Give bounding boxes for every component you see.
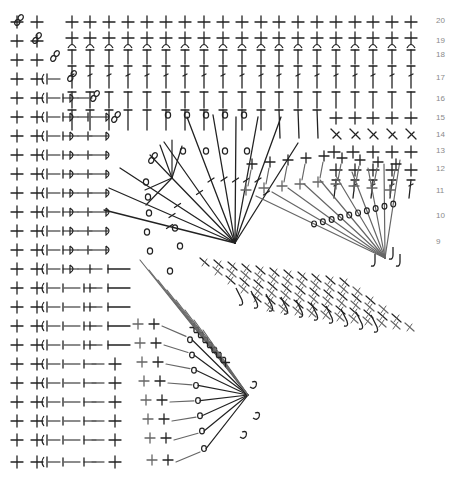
hook-icon [326, 306, 333, 323]
fan-spoke [192, 340, 248, 395]
arc-icon [219, 45, 227, 49]
stitch-line [389, 132, 395, 138]
stitch-line [408, 132, 414, 138]
chain-figure8-icon [67, 70, 78, 83]
stitch-line [298, 110, 299, 138]
stitch-line [240, 74, 244, 76]
arc-icon [275, 45, 283, 49]
hook-icon [371, 315, 378, 332]
stitch-line [302, 164, 305, 180]
row-label: 19 [436, 36, 445, 45]
arc-icon [313, 45, 321, 49]
ring-icon [177, 243, 182, 249]
row-label: 9 [436, 237, 441, 246]
hook-icon [253, 413, 260, 420]
arc-icon [181, 45, 189, 49]
arc-icon [351, 45, 359, 49]
hook-icon [341, 309, 348, 326]
row-label: 18 [436, 50, 445, 59]
ring-icon [144, 229, 149, 235]
stitch-line [164, 74, 168, 76]
fan-spoke [288, 188, 385, 258]
fan-spoke [150, 155, 172, 178]
stitch-line [221, 74, 225, 76]
arc-icon [105, 45, 113, 49]
stitch-line [202, 74, 206, 76]
arc-icon [238, 45, 246, 49]
stitch-line [277, 74, 281, 76]
fan-row [172, 417, 196, 421]
arc-icon [200, 45, 208, 49]
chain-figure8-icon [111, 111, 122, 124]
fan-spoke [145, 178, 172, 190]
arc-icon [332, 45, 340, 49]
stitch-line [266, 168, 269, 184]
arc-icon [257, 45, 265, 49]
hook-icon [236, 288, 243, 305]
stitch-line [334, 74, 338, 76]
stitch-line [183, 74, 187, 76]
stitch-line [126, 74, 130, 76]
fan-stitches [14, 14, 414, 465]
ring-icon [244, 148, 249, 154]
fan-row [170, 401, 194, 402]
stitch-line [88, 74, 92, 76]
chain-figure8-icon [14, 14, 25, 27]
ring-icon [167, 268, 172, 274]
stitch-line [371, 74, 375, 76]
row-label: 20 [436, 16, 445, 25]
row-label: 12 [436, 164, 445, 173]
stitch-line [296, 74, 300, 76]
stitch-line [409, 184, 413, 186]
fan-spoke [146, 178, 172, 205]
crochet-chart: 20191817161514131211109 [0, 0, 450, 477]
arc-icon [68, 45, 76, 49]
fan-row [162, 326, 186, 336]
arc-icon [124, 45, 132, 49]
arc-icon [86, 45, 94, 49]
stitch-line [387, 129, 397, 139]
stitch-line [350, 129, 360, 139]
stitch-line [333, 132, 339, 138]
hook-icon [356, 312, 363, 329]
fan-row [176, 452, 200, 462]
row-label: 16 [436, 94, 445, 103]
hook-icon [311, 303, 318, 320]
fan-spoke [206, 395, 248, 449]
fan-spoke [384, 164, 385, 258]
top-stitch-grid [66, 16, 417, 198]
fan-spoke [196, 370, 248, 395]
hook-icon [371, 254, 375, 266]
stitch-line [331, 129, 341, 139]
ring-icon [222, 148, 227, 154]
arc-icon [407, 45, 415, 49]
row-labels: 20191817161514131211109 [436, 16, 445, 246]
stitch-line [409, 180, 411, 198]
stitch-line [368, 129, 378, 139]
arc-icon [162, 45, 170, 49]
fan-spoke [272, 192, 385, 258]
hook-icon [240, 432, 247, 439]
chain-figure8-icon [32, 32, 43, 45]
row-label: 17 [436, 73, 445, 82]
hook-icon [396, 254, 400, 266]
fan-spoke [256, 196, 385, 258]
ring-icon [203, 148, 208, 154]
stitch-line [317, 110, 318, 138]
arc-icon [294, 45, 302, 49]
stitch-line [320, 162, 323, 178]
fan-row [166, 364, 190, 369]
stitch-line [259, 74, 263, 76]
row-label: 11 [436, 186, 445, 195]
hook-icon [250, 382, 257, 389]
chain-figure8-icon [50, 50, 61, 63]
ring-icon [146, 210, 151, 216]
ring-icon [145, 194, 150, 200]
stitch-line [353, 74, 357, 76]
row-label: 14 [436, 130, 445, 139]
spoke-tick [197, 191, 203, 195]
chart-canvas: 20191817161514131211109 [0, 0, 450, 477]
stitch-line [107, 74, 111, 76]
arc-icon [143, 45, 151, 49]
row-label: 15 [436, 113, 445, 122]
